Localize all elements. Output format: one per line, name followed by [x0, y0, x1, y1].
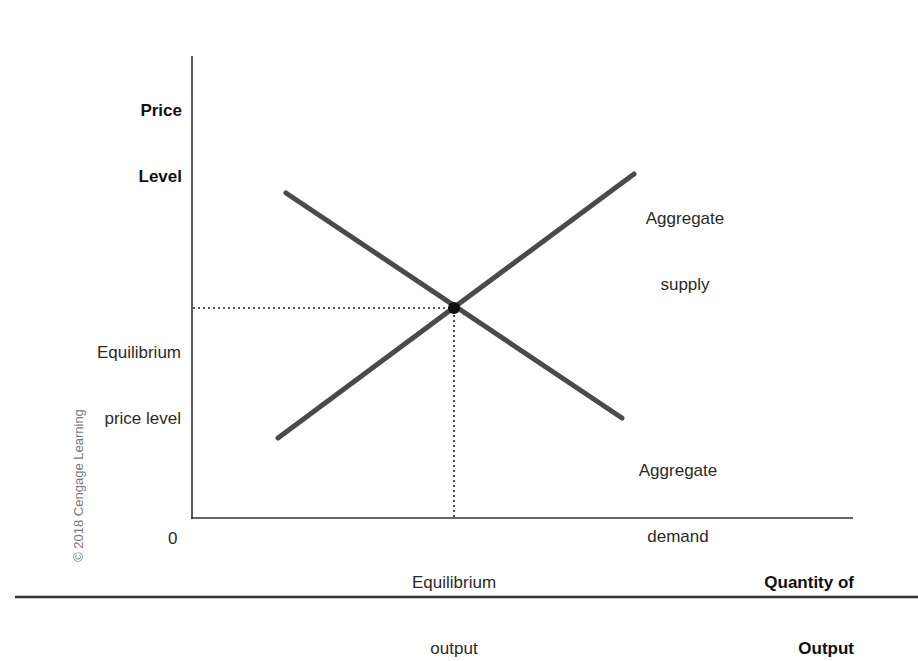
aggregate-supply-label-line2: supply — [635, 274, 735, 296]
eq-output-label-line2: output — [394, 638, 514, 660]
y-axis-title-line2: Level — [100, 166, 182, 188]
copyright-notice: © 2018 Cengage Learning — [71, 386, 86, 586]
eq-price-label-line1: Equilibrium — [40, 342, 181, 364]
eq-output-label: Equilibrium output — [394, 528, 514, 661]
x-axis-title-line2: Output — [700, 638, 854, 660]
equilibrium-point — [448, 302, 460, 314]
eq-price-label: Equilibrium price level — [40, 298, 181, 452]
y-axis-title: Price Level — [100, 56, 182, 210]
aggregate-demand-label-line1: Aggregate — [628, 460, 728, 482]
x-axis-title-line1: Quantity of — [700, 572, 854, 594]
y-axis-title-line1: Price — [100, 100, 182, 122]
origin-label: 0 — [168, 528, 177, 550]
aggregate-supply-label: Aggregate supply — [635, 164, 735, 318]
aggregate-supply-label-line1: Aggregate — [635, 208, 735, 230]
x-axis-title: Quantity of Output — [700, 528, 854, 661]
eq-output-label-line1: Equilibrium — [394, 572, 514, 594]
eq-price-label-line2: price level — [40, 408, 181, 430]
